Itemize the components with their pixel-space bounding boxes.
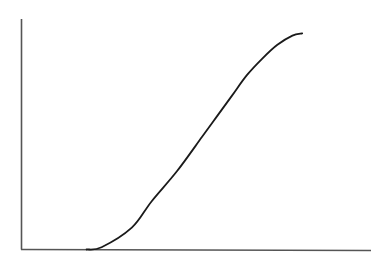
x-axis: [21, 250, 371, 251]
chart: [0, 0, 391, 262]
s-curve-line: [87, 33, 303, 249]
